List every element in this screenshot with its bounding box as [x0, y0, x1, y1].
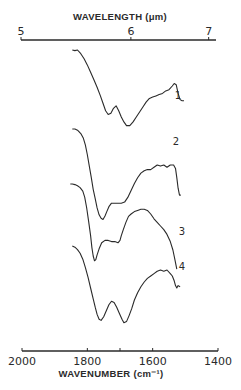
top-axis-title: WAVELENGTH (μm): [73, 11, 167, 22]
bottom-tick-label: 2000: [8, 355, 36, 368]
top-axis-wavelength: WAVELENGTH (μm) 567: [18, 11, 217, 40]
bottom-tick-label: 1800: [73, 355, 101, 368]
ir-spectrum-chart: WAVELENGTH (μm) 567 2000180016001400 WAV…: [0, 0, 241, 390]
spectrum-trace-1: [72, 50, 184, 126]
top-tick-label: 6: [127, 25, 134, 38]
spectrum-trace-2: [72, 129, 181, 220]
bottom-axis-title: WAVENUMBER (cm⁻¹): [59, 368, 164, 379]
top-tick-label: 5: [18, 25, 25, 38]
spectrum-trace-3: [70, 184, 177, 269]
bottom-tick-label: 1600: [139, 355, 167, 368]
trace-label-2: 2: [173, 136, 179, 147]
trace-label-1: 1: [175, 90, 181, 101]
trace-label-4: 4: [179, 261, 185, 272]
spectra-traces: 1234: [70, 50, 185, 323]
trace-label-3: 3: [179, 226, 185, 237]
bottom-tick-label: 1400: [204, 355, 232, 368]
bottom-axis-wavenumber: 2000180016001400 WAVENUMBER (cm⁻¹): [8, 348, 232, 379]
top-tick-label: 7: [205, 25, 212, 38]
spectrum-trace-4: [72, 246, 180, 323]
